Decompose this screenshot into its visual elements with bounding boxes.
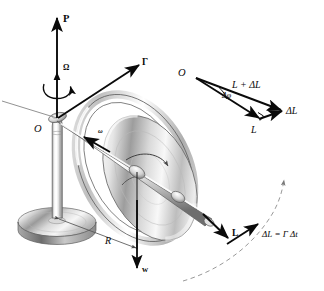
label-L-plus-deltaL: L + ΔL: [231, 79, 261, 90]
label-delta-L-equation: ΔL = Γ Δt: [261, 229, 298, 239]
label-delta-phi: Δφ: [221, 91, 232, 100]
label-w: w: [142, 264, 149, 274]
label-P: P: [63, 13, 70, 24]
pedestal-column: [52, 113, 62, 218]
label-origin-O: O: [34, 123, 42, 134]
label-R: R: [104, 235, 111, 246]
label-Gamma: Γ: [142, 57, 148, 67]
gyroscope-figure: P Ω Γ ω O R w L ΔL = Γ Δt O L +: [0, 0, 324, 291]
gyroscope-diagram-canvas: P Ω Γ ω O R w L ΔL = Γ Δt O L +: [0, 0, 324, 291]
label-Omega: Ω: [63, 63, 70, 72]
label-omega: ω: [98, 127, 103, 134]
label-triangle-origin-O: O: [178, 67, 186, 78]
label-deltaL: ΔL: [285, 105, 298, 116]
label-triangle-L: L: [250, 124, 257, 135]
